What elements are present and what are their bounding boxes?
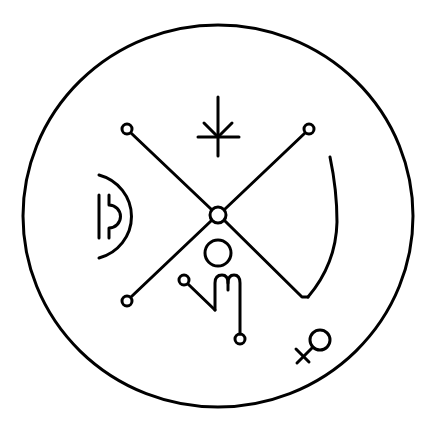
- arm-lower-right: [225, 221, 308, 297]
- scorpio-glyph-icon: [179, 275, 245, 344]
- head-circle-icon: [205, 240, 231, 266]
- sigil-diagram: Sigil: outer circle enclosing an X-shape…: [0, 0, 432, 427]
- star-asterisk-icon: [198, 97, 239, 156]
- arm-upper-right: [225, 133, 305, 209]
- arm-upper-left: [131, 133, 211, 209]
- crescent-arc-icon: [308, 157, 337, 297]
- venus-icon: [296, 330, 330, 363]
- ring-upper-left-icon: [122, 124, 132, 134]
- ring-lower-left-icon: [122, 296, 132, 306]
- moon-half-circle-icon: [99, 175, 131, 258]
- outer-circle: [23, 25, 413, 407]
- arm-lower-left: [131, 221, 211, 297]
- center-ring-icon: [210, 207, 226, 223]
- ring-upper-right-icon: [304, 124, 314, 134]
- sigil-svg: [0, 0, 432, 427]
